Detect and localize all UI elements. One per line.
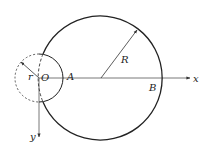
label-origin: O: [41, 72, 49, 83]
label-point-a: A: [66, 71, 74, 82]
diagram-canvas: O A B x y R r: [0, 0, 209, 155]
label-y-axis: y: [29, 131, 36, 142]
label-point-b: B: [148, 82, 156, 93]
small-circle-dashed-half: [15, 54, 39, 102]
geometry-figure: O A B x y R r: [0, 0, 209, 155]
label-x-axis: x: [193, 73, 199, 84]
label-big-radius: R: [120, 54, 129, 65]
radius-r-big-arrow: [101, 30, 137, 78]
